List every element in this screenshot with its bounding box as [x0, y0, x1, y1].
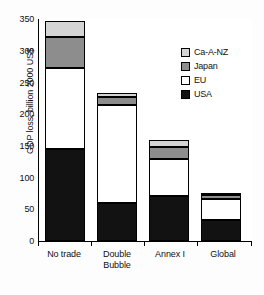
bar-segment-global-eu[interactable] — [201, 199, 241, 221]
y-axis-label: GDP loss, billion 2000 US$ — [25, 11, 35, 191]
bar-double-bubble[interactable] — [97, 93, 137, 241]
legend-item-eu[interactable]: EU — [181, 73, 249, 87]
legend-item-japan[interactable]: Japan — [181, 59, 249, 73]
bar-segment-annex-i-eu[interactable] — [149, 159, 189, 196]
y-tick-label-250: 250 — [0, 78, 34, 88]
bar-segment-no-trade-japan[interactable] — [45, 37, 85, 68]
x-tick-mark-2 — [144, 241, 145, 246]
y-tick-label-100: 100 — [0, 173, 34, 183]
bar-segment-no-trade-usa[interactable] — [45, 149, 85, 241]
legend-item-usa[interactable]: USA — [181, 87, 249, 101]
legend-label-japan: Japan — [194, 61, 218, 71]
bar-annex-i[interactable] — [149, 140, 189, 241]
bar-segment-double-bubble-usa[interactable] — [97, 203, 137, 241]
x-label-global: Global — [184, 249, 262, 260]
bar-segment-double-bubble-japan[interactable] — [97, 97, 137, 105]
bar-no-trade[interactable] — [45, 21, 85, 241]
bar-segment-annex-i-usa[interactable] — [149, 196, 189, 241]
bar-segment-global-usa[interactable] — [201, 220, 241, 241]
bar-segment-global-japan[interactable] — [201, 195, 241, 198]
bar-segment-annex-i-japan[interactable] — [149, 147, 189, 158]
legend-label-eu: EU — [194, 75, 206, 85]
legend-label-ca-a-nz: Ca-A-NZ — [194, 47, 228, 57]
y-tick-label-50: 50 — [0, 204, 34, 214]
y-tick-label-150: 150 — [0, 141, 34, 151]
y-tick-label-350: 350 — [0, 14, 34, 24]
bar-segment-no-trade-ca-a-nz[interactable] — [45, 21, 85, 37]
legend-swatch-ca-a-nz-icon — [181, 48, 190, 57]
x-tick-mark-left — [38, 241, 39, 246]
legend-swatch-japan-icon — [181, 62, 190, 71]
bar-segment-no-trade-eu[interactable] — [45, 68, 85, 149]
legend-item-ca-a-nz[interactable]: Ca-A-NZ — [181, 45, 249, 59]
legend-swatch-eu-icon — [181, 76, 190, 85]
legend-swatch-usa-icon — [181, 90, 190, 99]
x-tick-mark-3 — [197, 241, 198, 246]
chart-legend: Ca-A-NZ Japan EU USA — [181, 45, 249, 101]
bar-global[interactable] — [201, 193, 241, 241]
x-label-global-line1: Global — [184, 249, 262, 260]
y-tick-label-0: 0 — [0, 236, 34, 246]
legend-label-usa: USA — [194, 89, 212, 99]
bar-segment-double-bubble-ca-a-nz[interactable] — [97, 93, 137, 97]
bar-segment-global-ca-a-nz[interactable] — [201, 193, 241, 196]
x-label-double-bubble-line2: Bubble — [78, 260, 156, 271]
x-tick-mark-right — [251, 241, 252, 246]
y-tick-label-200: 200 — [0, 109, 34, 119]
chart-figure: GDP loss, billion 2000 US$ 350 300 250 2… — [0, 0, 264, 295]
bar-segment-annex-i-ca-a-nz[interactable] — [149, 140, 189, 148]
x-tick-mark-1 — [91, 241, 92, 246]
bar-segment-double-bubble-eu[interactable] — [97, 105, 137, 203]
y-tick-label-300: 300 — [0, 46, 34, 56]
